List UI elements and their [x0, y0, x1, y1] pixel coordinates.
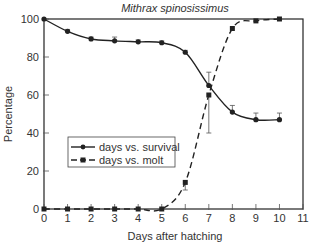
survival-point: [41, 16, 46, 21]
survival-point: [88, 36, 93, 41]
molt-point: [89, 207, 94, 212]
molt-line: [44, 19, 279, 211]
x-tick-label: 6: [182, 212, 188, 224]
legend-circle-marker: [81, 145, 86, 150]
x-tick-label: 8: [229, 212, 235, 224]
x-tick-label: 7: [206, 212, 212, 224]
y-axis-label: Percentage: [2, 86, 14, 142]
molt-point: [112, 207, 117, 212]
x-axis-label: Days after hatching: [128, 230, 223, 242]
survival-point: [253, 117, 258, 122]
survival-point: [65, 29, 70, 34]
chart-title: Mithrax spinosissimus: [121, 2, 229, 14]
chart: Mithrax spinosissimus 020406080100012345…: [0, 0, 312, 246]
survival-point: [277, 117, 282, 122]
survival-point: [230, 110, 235, 115]
legend-label: days vs. molt: [99, 154, 163, 166]
plot-area: 02040608010001234567891011: [21, 13, 309, 224]
survival-line: [44, 19, 279, 120]
x-tick-label: 9: [253, 212, 259, 224]
y-tick-label: 100: [21, 13, 39, 25]
y-tick-label: 40: [27, 127, 39, 139]
x-tick-label: 0: [41, 212, 47, 224]
survival-point: [159, 40, 164, 45]
x-tick-label: 1: [64, 212, 70, 224]
x-tick-label: 4: [135, 212, 141, 224]
x-tick-label: 5: [159, 212, 165, 224]
survival-point: [136, 39, 141, 44]
x-tick-label: 2: [88, 212, 94, 224]
molt-point: [159, 207, 164, 212]
molt-point: [277, 17, 282, 22]
x-tick-label: 3: [112, 212, 118, 224]
plot-frame: [44, 19, 303, 209]
y-tick-label: 60: [27, 89, 39, 101]
y-tick-label: 80: [27, 51, 39, 63]
legend-square-marker: [81, 158, 86, 163]
molt-point: [65, 207, 70, 212]
molt-point: [253, 18, 258, 23]
legend-label: days vs. survival: [99, 141, 180, 153]
x-tick-label: 11: [297, 212, 308, 224]
y-tick-label: 20: [27, 165, 39, 177]
molt-point: [206, 93, 211, 98]
molt-point: [136, 207, 141, 212]
legend: days vs. survivaldays vs. molt: [68, 137, 180, 167]
molt-point: [183, 180, 188, 185]
molt-point: [230, 26, 235, 31]
survival-point: [183, 50, 188, 55]
x-tick-label: 10: [273, 212, 285, 224]
survival-point: [112, 38, 117, 43]
y-tick-label: 0: [33, 203, 39, 215]
molt-point: [42, 207, 47, 212]
